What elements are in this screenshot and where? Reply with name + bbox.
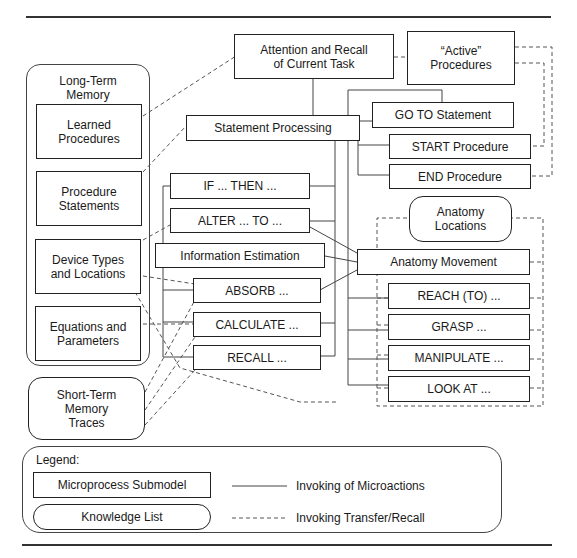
- bottom-rule: [22, 544, 552, 546]
- look-at-box[interactable]: LOOK AT ...: [388, 376, 530, 402]
- procedure-statements-box[interactable]: Procedure Statements: [36, 171, 142, 226]
- legend-dashed-label: Invoking Transfer/Recall: [296, 511, 425, 525]
- recall-box[interactable]: RECALL ...: [193, 345, 321, 370]
- manipulate-box[interactable]: MANIPULATE ...: [388, 345, 530, 371]
- legend-title: Legend:: [36, 453, 79, 467]
- short-term-memory-box[interactable]: Short-Term Memory Traces: [28, 377, 145, 440]
- anatomy-locations-box[interactable]: Anatomy Locations: [409, 196, 512, 242]
- end-procedure-box[interactable]: END Procedure: [389, 164, 531, 189]
- reach-to-box[interactable]: REACH (TO) ...: [388, 283, 530, 309]
- alter-to-box[interactable]: ALTER ... TO ...: [170, 208, 310, 233]
- top-rule: [26, 16, 551, 18]
- legend-submodel-box: Microprocess Submodel: [33, 472, 211, 498]
- start-procedure-box[interactable]: START Procedure: [389, 134, 531, 159]
- anatomy-movement-box[interactable]: Anatomy Movement: [357, 249, 530, 275]
- long-term-memory-title: Long-Term Memory: [26, 74, 150, 102]
- absorb-box[interactable]: ABSORB ...: [193, 278, 321, 303]
- learned-procedures-box[interactable]: Learned Procedures: [36, 104, 142, 159]
- equations-parameters-box[interactable]: Equations and Parameters: [35, 306, 141, 361]
- legend-knowledge-box: Knowledge List: [33, 504, 211, 530]
- statement-processing-box[interactable]: Statement Processing: [186, 115, 360, 141]
- goto-statement-box[interactable]: GO TO Statement: [372, 102, 514, 128]
- grasp-box[interactable]: GRASP ...: [388, 314, 530, 340]
- attention-recall-box[interactable]: Attention and Recall of Current Task: [234, 34, 394, 79]
- legend-solid-label: Invoking of Microactions: [296, 479, 425, 493]
- calculate-box[interactable]: CALCULATE ...: [193, 312, 321, 337]
- information-estimation-box[interactable]: Information Estimation: [155, 243, 325, 268]
- if-then-box[interactable]: IF ... THEN ...: [170, 173, 310, 199]
- active-procedures-box[interactable]: “Active” Procedures: [407, 31, 515, 85]
- device-types-box[interactable]: Device Types and Locations: [35, 239, 141, 294]
